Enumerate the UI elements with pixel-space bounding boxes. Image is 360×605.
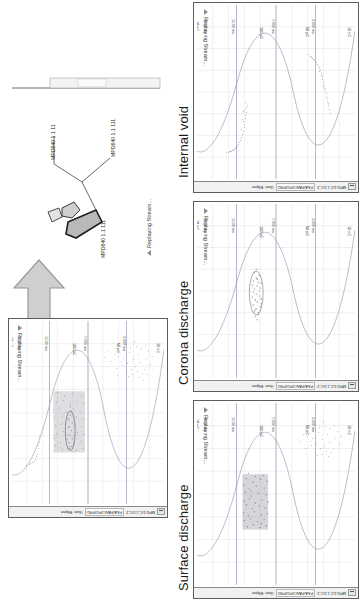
status-sub-label: 18 pC: [197, 419, 199, 429]
y-tick-label: 10 nC: [347, 27, 351, 37]
x-tick-label: 7.000 ms: [271, 417, 275, 432]
status-bar: Replaying Stream...: [203, 407, 209, 464]
pd-titlebar[interactable]: MPD DC 1 DC 2 PSA/PANO/PD/PRD Gain Ellip…: [194, 380, 358, 391]
plot-canvas-corona-discharge: [197, 204, 355, 378]
y-tick-label: 50 pC: [116, 343, 120, 353]
play-triangle-icon: [18, 325, 22, 331]
status-label: Replaying Stream...: [17, 333, 23, 382]
window-title-seg-3: Gain: [265, 383, 273, 389]
pd-panel-merged[interactable]: MPD DC 1 DC 2 PSA/PANO/PD/PRD Gain Ellip…: [8, 318, 168, 518]
x-tick-label: 7.000 ms: [271, 218, 275, 233]
window-title-seg-4: Ellipse: [61, 509, 72, 515]
y-tick-label: 10 nC: [347, 425, 351, 435]
x-tick-label: 3.000 ms: [311, 218, 315, 233]
window-title-seg-1: MPD DC 1 DC 2: [317, 184, 346, 190]
x-tick-label: 12.00 ms: [231, 19, 235, 34]
minimize-icon[interactable]: [348, 590, 356, 597]
y-tick-label: 10 nC: [347, 226, 351, 236]
play-triangle-icon: [204, 9, 208, 15]
y-tick-label: 100 pC: [72, 343, 76, 355]
minimize-icon[interactable]: [157, 509, 165, 516]
plot-canvas-surface-discharge: [197, 403, 355, 585]
window-title-seg-4: Ellipse: [252, 184, 263, 190]
status-sub-label: 18 pC: [197, 220, 199, 230]
status-label: Replaying Stream...: [203, 216, 209, 265]
sensor-schematic: MPD640 1.1 11 MPD640 1.1 111 MPD640 1.1 …: [0, 62, 185, 262]
status-bar-schematic: Replaying Stream...: [146, 199, 152, 256]
play-triangle-icon: [204, 208, 208, 214]
play-triangle-icon: [204, 407, 208, 413]
pd-panel-surface-discharge[interactable]: MPD DC 1 DC 2 PSA/PANO/PD/PRD Gain Ellip…: [193, 400, 359, 599]
schematic-canvas: [0, 62, 185, 262]
x-tick-label: 12.00 ms: [44, 336, 48, 351]
status-label: Replaying Stream...: [203, 415, 209, 464]
pd-titlebar[interactable]: MPD DC 1 DC 2 PSA/PANO/PD/PRD Gain Ellip…: [194, 587, 358, 598]
x-tick-label: 7.000 ms: [83, 336, 87, 351]
pd-titlebar[interactable]: MPD DC 1 DC 2 PSA/PANO/PD/PRD Gain Ellip…: [194, 181, 358, 192]
pd-plot-area[interactable]: 3.000 ms 7.000 ms 12.00 ms 15.00 ms 10 n…: [197, 403, 355, 585]
status-bar: Replaying Stream...: [203, 208, 209, 265]
window-title-seg-3: Gain: [265, 590, 273, 596]
caption-surface-discharge: Surface discharge: [176, 485, 191, 591]
y-tick-label: 50 pC: [305, 226, 309, 236]
pd-plot-area[interactable]: 3.000 ms 7.000 ms 12.00 ms 15.00 ms 10 n…: [197, 204, 355, 378]
y-tick-label: 10 nC: [156, 343, 160, 353]
minimize-icon[interactable]: [348, 184, 356, 191]
pd-titlebar[interactable]: MPD DC 1 DC 2 PSA/PANO/PD/PRD Gain Ellip…: [9, 506, 167, 517]
status-label: Replaying Stream...: [146, 199, 152, 248]
status-bar: Replaying Stream...: [203, 9, 209, 66]
x-tick-label: 7.000 ms: [271, 19, 275, 34]
window-title-seg-4: Ellipse: [252, 383, 263, 389]
sensor-label-a: MPD640 1.1 11: [50, 124, 56, 160]
x-tick-label: 3.000 ms: [122, 336, 126, 351]
window-title-seg-4: Ellipse: [252, 590, 263, 596]
pd-plot-area[interactable]: 3.000 ms 7.000 ms 12.00 ms 15.00 ms 10 n…: [197, 5, 355, 179]
x-tick-label: 12.00 ms: [231, 417, 235, 432]
x-tick-label: 3.000 ms: [311, 417, 315, 432]
x-tick-label: 3.000 ms: [311, 19, 315, 34]
status-bar: Replaying Stream...: [17, 325, 23, 382]
figure-root: MPD DC 1 DC 2 PSA/PANO/PD/PRD Gain Ellip…: [0, 0, 360, 605]
y-tick-label: 50 pC: [305, 425, 309, 435]
plot-canvas-internal-void: [197, 5, 355, 179]
window-title-seg-3: Gain: [74, 509, 82, 515]
status-sub-label: 18 pC: [12, 337, 13, 347]
play-triangle-icon: [147, 250, 151, 256]
window-title-seg-2: PSA/PANO/PD/PRD: [276, 589, 316, 597]
window-title-seg-2: PSA/PANO/PD/PRD: [276, 183, 316, 191]
status-sub-label: 18 pC: [197, 21, 199, 31]
window-title-seg-3: Gain: [265, 184, 273, 190]
y-tick-label: 50 pC: [305, 27, 309, 37]
x-tick-label: 12.00 ms: [231, 218, 235, 233]
minimize-icon[interactable]: [348, 383, 356, 390]
window-title-seg-2: PSA/PANO/PD/PRD: [85, 508, 125, 516]
pd-plot-area[interactable]: 3.000 ms 7.000 ms 12.00 ms 15.00 ms 10 n…: [12, 321, 164, 504]
sensor-label-b: MPD640 1.1 111: [110, 119, 116, 157]
window-title-seg-2: PSA/PANO/PD/PRD: [276, 382, 316, 390]
y-tick-label: 100 pC: [259, 425, 263, 437]
pd-panel-corona-discharge[interactable]: MPD DC 1 DC 2 PSA/PANO/PD/PRD Gain Ellip…: [193, 201, 359, 392]
window-title-seg-1: MPD DC 1 DC 2: [126, 509, 155, 515]
sensor-label-c: MPD640 1.1 111: [100, 220, 106, 258]
y-tick-label: 100 pC: [259, 27, 263, 39]
window-title-seg-1: MPD DC 1 DC 2: [317, 383, 346, 389]
pd-panel-internal-void[interactable]: MPD DC 1 DC 2 PSA/PANO/PD/PRD Gain Ellip…: [193, 2, 359, 193]
y-tick-label: 100 pC: [259, 226, 263, 238]
window-title-seg-1: MPD DC 1 DC 2: [317, 590, 346, 596]
caption-corona-discharge: Corona discharge: [176, 281, 191, 385]
status-label: Replaying Stream...: [203, 17, 209, 66]
plot-canvas-merged: [12, 321, 164, 504]
